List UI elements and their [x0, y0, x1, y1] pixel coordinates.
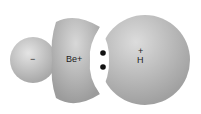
- beryllium-label: Be+: [66, 55, 82, 64]
- bond-diagram: − Be+ + H: [0, 0, 201, 114]
- negative-charge-label: −: [30, 55, 35, 64]
- hydrogen-sphere: [100, 15, 190, 105]
- hydrogen-label: H: [137, 56, 144, 65]
- electron-dot: [100, 50, 106, 56]
- electron-dot: [100, 64, 106, 70]
